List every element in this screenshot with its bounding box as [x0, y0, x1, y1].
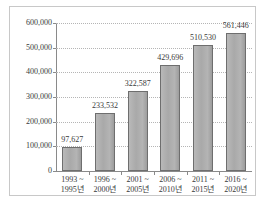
bar-group: 510,530	[187, 23, 220, 171]
bar-value-label: 322,587	[125, 80, 151, 88]
y-axis-tick-label: 100,000	[26, 142, 52, 150]
bar-group: 429,696	[154, 23, 187, 171]
x-label-line-1: 2001 ~	[121, 175, 154, 185]
x-label-line-1: 1996 ~	[89, 175, 122, 185]
x-label-line-1: 2006 ~	[154, 175, 187, 185]
x-label-line-1: 2016 ~	[219, 175, 252, 185]
y-axis-tick-label: 300,000	[26, 93, 52, 101]
x-axis-labels: 1993 ~1995년1996 ~2000년2001 ~2005년2006 ~2…	[56, 175, 252, 205]
x-label-line-2: 1995년	[56, 185, 89, 195]
x-axis-category-label: 1996 ~2000년	[89, 175, 122, 195]
y-axis-tick-label: 400,000	[26, 68, 52, 76]
bar[interactable]	[95, 113, 115, 171]
bar-group: 233,532	[89, 23, 122, 171]
bar-group: 322,587	[121, 23, 154, 171]
bar-value-label: 561,446	[223, 22, 249, 30]
x-axis-category-label: 1993 ~1995년	[56, 175, 89, 195]
y-axis-tick-label: 500,000	[26, 44, 52, 52]
y-axis-tick-label: 200,000	[26, 118, 52, 126]
y-axis-tick-label: 0	[48, 167, 52, 175]
x-label-line-2: 2000년	[89, 185, 122, 195]
x-label-line-2: 2020년	[219, 185, 252, 195]
bar-value-label: 429,696	[157, 54, 183, 62]
bar-value-label: 510,530	[190, 34, 216, 42]
bar[interactable]	[128, 91, 148, 171]
bar-value-label: 233,532	[92, 102, 118, 110]
x-axis-category-label: 2016 ~2020년	[219, 175, 252, 195]
x-axis-category-label: 2001 ~2005년	[121, 175, 154, 195]
x-label-line-1: 2011 ~	[187, 175, 220, 185]
chart-frame: 0100,000200,000300,000400,000500,000600,…	[9, 6, 256, 196]
bar[interactable]	[226, 33, 246, 171]
bar[interactable]	[62, 147, 82, 171]
y-axis-labels: 0100,000200,000300,000400,000500,000600,…	[10, 23, 52, 171]
x-label-line-1: 1993 ~	[56, 175, 89, 185]
bar[interactable]	[193, 45, 213, 171]
x-label-line-2: 2010년	[154, 185, 187, 195]
bar[interactable]	[160, 65, 180, 171]
y-axis-tick-label: 600,000	[26, 19, 52, 27]
bar-group: 97,627	[56, 23, 89, 171]
x-axis-category-label: 2006 ~2010년	[154, 175, 187, 195]
x-label-line-2: 2015년	[187, 185, 220, 195]
x-axis-category-label: 2011 ~2015년	[187, 175, 220, 195]
x-label-line-2: 2005년	[121, 185, 154, 195]
bar-value-label: 97,627	[61, 136, 83, 144]
bar-group: 561,446	[219, 23, 252, 171]
plot-area: 97,627233,532322,587429,696510,530561,44…	[56, 23, 252, 171]
